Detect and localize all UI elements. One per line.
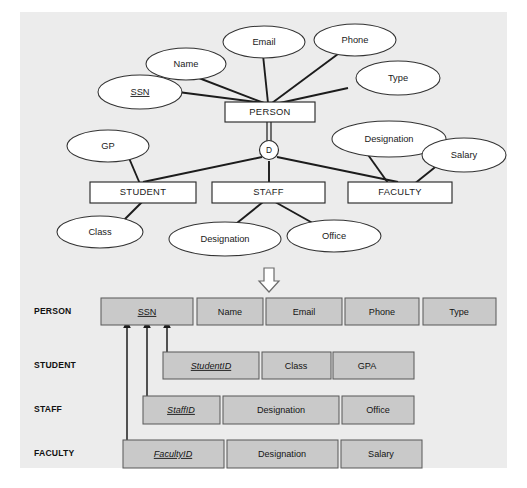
er-entity-person-label: PERSON [249,106,290,117]
er-attribute-faculty-designation-label: Designation [364,134,413,144]
er-attribute-phone[interactable]: Phone [314,24,396,56]
schema-row-student: STUDENT StudentID Class GPA [34,352,414,379]
er-attribute-type[interactable]: Type [356,61,440,95]
schema-row-faculty: FACULTY FacultyID Designation Salary [34,440,422,468]
er-attribute-ssn[interactable]: SSN [98,75,182,109]
er-entity-staff[interactable]: STAFF [212,182,325,203]
schema-cell-student-studentid-label: StudentID [191,361,232,371]
er-attribute-gp-label: GP [101,141,114,151]
er-specialization-circle[interactable]: D [260,141,279,160]
schema-cell-staff-staffid[interactable]: StaffID [143,396,220,424]
er-attribute-email-label: Email [252,37,275,47]
er-attribute-office-label: Office [322,231,346,241]
er-attribute-class-label: Class [88,227,112,237]
er-entity-student-label: STUDENT [120,186,166,197]
er-entity-staff-label: STAFF [253,186,284,197]
er-subclass-edges [143,157,398,182]
er-attribute-salary[interactable]: Salary [422,138,506,172]
schema-cell-faculty-designation-label: Designation [258,449,306,459]
schema-cell-staff-staffid-label: StaffID [167,405,195,415]
schema-cell-person-phone[interactable]: Phone [345,298,419,325]
schema-row-student-label: STUDENT [34,360,77,370]
schema-cell-person-email-label: Email [293,307,316,317]
er-attribute-staff-designation[interactable]: Designation [169,222,281,256]
er-entity-student[interactable]: STUDENT [90,182,196,203]
schema-cell-staff-office[interactable]: Office [342,396,414,424]
schema-cell-person-email[interactable]: Email [266,298,342,325]
er-attribute-name[interactable]: Name [146,48,226,80]
schema-row-staff: STAFF StaffID Designation Office [34,396,414,424]
figure-canvas: SSN Name Email Phone Type GP Class Des [0,0,527,488]
er-attribute-gp[interactable]: GP [67,130,149,162]
er-attribute-name-label: Name [174,59,199,69]
schema-cell-person-name-label: Name [218,307,242,317]
schema-cell-student-studentid[interactable]: StudentID [163,352,259,379]
er-attribute-class[interactable]: Class [57,216,143,248]
er-attribute-salary-label: Salary [451,150,478,160]
schema-cell-person-ssn-label: SSN [138,307,157,317]
er-attribute-email[interactable]: Email [223,26,305,58]
schema-cell-student-class[interactable]: Class [262,352,331,379]
schema-row-staff-label: STAFF [34,404,62,414]
down-arrow-icon [259,268,279,292]
er-entity-faculty-label: FACULTY [378,186,422,197]
schema-cell-staff-designation-label: Designation [257,405,305,415]
schema-row-faculty-label: FACULTY [34,448,74,458]
schema-cell-faculty-salary-label: Salary [368,449,394,459]
schema-cell-person-phone-label: Phone [369,307,395,317]
er-attribute-office[interactable]: Office [287,220,381,252]
er-attribute-staff-designation-label: Designation [200,234,249,244]
er-attribute-phone-label: Phone [342,35,369,45]
schema-cell-faculty-facultyid[interactable]: FacultyID [123,440,224,468]
schema-cell-faculty-facultyid-label: FacultyID [154,449,193,459]
er-entity-person[interactable]: PERSON [225,102,315,122]
schema-cell-staff-designation[interactable]: Designation [223,396,339,424]
er-specialization-symbol: D [266,145,272,155]
schema-cell-person-type[interactable]: Type [423,298,496,325]
schema-cell-student-gpa[interactable]: GPA [333,352,414,379]
er-entity-faculty[interactable]: FACULTY [348,182,452,203]
er-attribute-ssn-label: SSN [130,87,149,97]
schema-cell-person-name[interactable]: Name [197,298,263,325]
schema-row-person-label: PERSON [34,306,72,316]
schema-cell-student-gpa-label: GPA [358,361,377,371]
schema-cell-student-class-label: Class [285,361,308,371]
schema-cell-faculty-salary[interactable]: Salary [341,440,422,468]
er-attribute-type-label: Type [388,73,408,83]
schema-cell-faculty-designation[interactable]: Designation [227,440,338,468]
schema-cell-person-type-label: Type [449,307,469,317]
figure-graphics: SSN Name Email Phone Type GP Class Des [0,0,527,488]
schema-row-person: PERSON SSN Name Email Phone Type [34,298,496,325]
schema-cell-staff-office-label: Office [366,405,390,415]
er-specialization-connector [267,122,271,141]
schema-cell-person-ssn[interactable]: SSN [101,298,193,325]
